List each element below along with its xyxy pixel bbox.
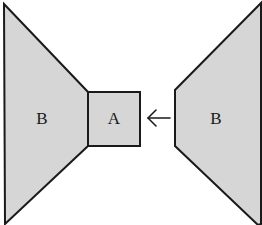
left-arrow-icon bbox=[148, 110, 170, 126]
left-b-label: B bbox=[36, 109, 47, 128]
box-a-label: A bbox=[108, 109, 121, 128]
right-b-label: B bbox=[210, 109, 221, 128]
diagram-svg: B A B bbox=[0, 0, 262, 225]
diagram-canvas: B A B bbox=[0, 0, 262, 225]
